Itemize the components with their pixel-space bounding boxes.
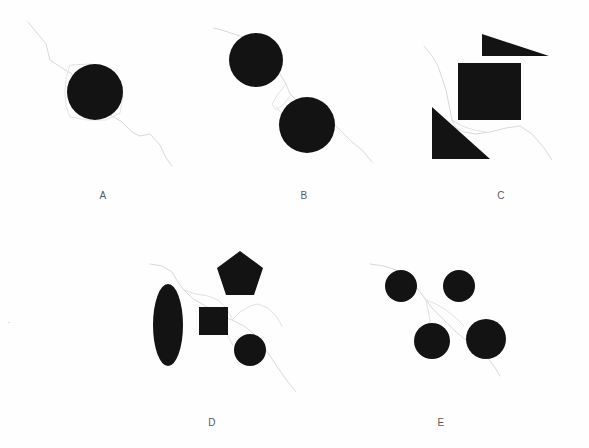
panel-label-d: D xyxy=(202,417,222,428)
shape-circle xyxy=(443,270,475,302)
panel-b: B xyxy=(196,0,396,224)
route-branch-d-2 xyxy=(232,304,282,326)
panel-label-b: B xyxy=(294,190,314,201)
shape-circle xyxy=(385,270,417,302)
panel-label-a: A xyxy=(93,190,113,201)
shape-circle xyxy=(229,33,283,87)
shape-ellipse xyxy=(153,284,183,366)
route-branch-e-2 xyxy=(426,300,464,326)
shape-circle xyxy=(414,323,450,359)
panel-label-e: E xyxy=(431,417,451,428)
panel-e-graphics xyxy=(350,224,589,448)
shape-circle xyxy=(466,319,506,359)
panel-e: E xyxy=(350,224,589,448)
shape-circle xyxy=(234,334,266,366)
shape-circle xyxy=(67,64,123,120)
panel-d-graphics xyxy=(130,224,330,448)
panel-label-c: C xyxy=(491,190,511,201)
shape-triangle xyxy=(482,34,549,56)
figure-canvas: A B C xyxy=(0,0,589,448)
shape-square xyxy=(199,307,228,335)
shape-square xyxy=(458,63,521,120)
shape-circle xyxy=(279,97,335,153)
panel-d: D xyxy=(130,224,330,448)
speck-mark xyxy=(8,322,10,323)
panel-a: A xyxy=(0,0,196,224)
panel-c: C xyxy=(396,0,589,224)
shape-pentagon xyxy=(217,251,263,295)
